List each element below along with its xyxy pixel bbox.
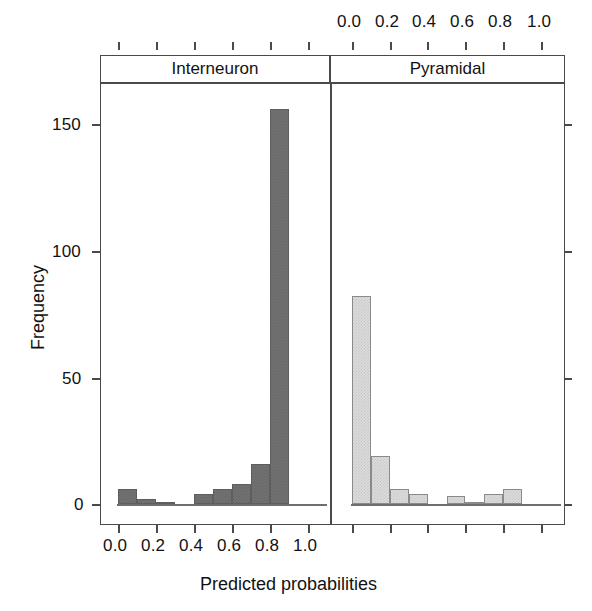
bottom-tick-right-0 [352,525,354,533]
histogram-bar [213,489,232,504]
y-tick-0 [92,504,100,506]
bottom-tick-right-3 [465,525,467,533]
top-tick-label-4: 0.8 [488,12,512,32]
y-tick-label-150: 150 [52,115,81,135]
top-tick-left-5 [308,42,310,50]
bottom-tick-label-5: 1.0 [293,536,317,556]
bottom-tick-5 [308,525,310,533]
histogram-bar [371,456,390,504]
bottom-tick-label-3: 0.6 [217,536,241,556]
histogram-bar [352,296,371,504]
y-tick-label-100: 100 [52,242,81,262]
baseline-interneuron [117,504,327,506]
top-tick-left-1 [156,42,158,50]
baseline-pyramidal [351,504,561,506]
histogram-bar [194,494,213,504]
bottom-tick-label-1: 0.2 [141,536,165,556]
strip-header-pyramidal: Pyramidal [330,55,565,83]
y-tick-right-100 [564,251,572,253]
top-tick-left-0 [118,42,120,50]
bottom-tick-3 [232,525,234,533]
histogram-bar [156,502,175,505]
top-tick-4 [503,42,505,50]
histogram-bar [503,489,522,504]
y-tick-right-0 [564,504,572,506]
bottom-tick-label-2: 0.4 [179,536,203,556]
top-tick-label-0: 0.0 [337,12,361,32]
histogram-bar [409,494,428,504]
top-tick-3 [465,42,467,50]
y-axis-title: Frequency [28,265,49,350]
y-tick-right-50 [564,378,572,380]
top-tick-left-3 [232,42,234,50]
y-tick-label-50: 50 [62,369,81,389]
histogram-bar [137,499,156,504]
strip-label-interneuron: Interneuron [172,59,259,79]
histogram-bar [251,464,270,505]
histogram-bar [270,109,289,504]
bottom-tick-0 [118,525,120,533]
histogram-bar [465,502,484,505]
x-axis-title: Predicted probabilities [200,574,377,595]
y-tick-150 [92,124,100,126]
y-tick-100 [92,251,100,253]
top-tick-2 [427,42,429,50]
top-tick-left-2 [194,42,196,50]
top-tick-label-1: 0.2 [375,12,399,32]
bottom-tick-label-4: 0.8 [255,536,279,556]
top-tick-5 [541,42,543,50]
y-tick-right-150 [564,124,572,126]
bottom-tick-label-0: 0.0 [103,536,127,556]
bottom-tick-1 [156,525,158,533]
bottom-tick-right-5 [541,525,543,533]
bottom-tick-right-1 [390,525,392,533]
histogram-bar [447,496,466,504]
histogram-bar [390,489,409,504]
bottom-tick-2 [194,525,196,533]
bars-interneuron [100,83,330,525]
histogram-bar [484,494,503,504]
bottom-tick-right-2 [427,525,429,533]
top-tick-label-2: 0.4 [412,12,436,32]
bottom-tick-4 [270,525,272,533]
top-tick-left-4 [270,42,272,50]
y-tick-label-0: 0 [74,495,84,515]
strip-header-interneuron: Interneuron [100,55,330,83]
strip-label-pyramidal: Pyramidal [410,59,486,79]
top-tick-1 [390,42,392,50]
histogram-bar [232,484,251,504]
bars-pyramidal [330,83,565,525]
histogram-chart: 0.0 0.2 0.4 0.6 0.8 1.0 Interneuron Pyra… [0,0,592,611]
top-tick-label-3: 0.6 [450,12,474,32]
y-tick-50 [92,378,100,380]
top-tick-label-5: 1.0 [527,12,551,32]
histogram-bar [118,489,137,504]
top-tick-0 [352,42,354,50]
bottom-tick-right-4 [503,525,505,533]
